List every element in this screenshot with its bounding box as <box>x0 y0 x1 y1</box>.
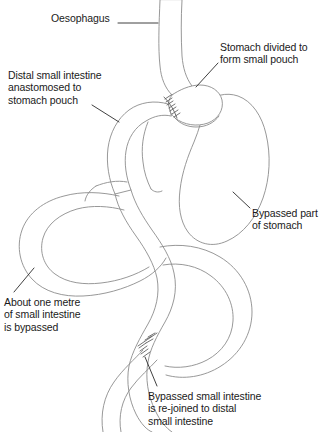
right-loop-inner <box>163 264 233 367</box>
leader-distal-anastomosed <box>92 105 119 122</box>
bypassed-loop-outer <box>19 193 166 297</box>
label-oesophagus: Oesophagus <box>51 12 110 24</box>
roux-limb-to-pouch <box>107 102 171 194</box>
label-bypassed-intestine-rejoined: Bypassed small intestine is re-joined to… <box>148 390 261 427</box>
upper-left-limb-bottom <box>85 186 96 201</box>
right-loop-outer <box>160 245 252 377</box>
leader-one-metre <box>14 268 34 292</box>
bypassed-loop-inner <box>42 206 149 283</box>
roux-limb-inner-fold <box>142 122 151 189</box>
leader-stomach-divided <box>196 63 218 87</box>
roux-limb-fold-tip <box>151 189 162 192</box>
distal-intestine-left <box>102 350 143 432</box>
oesophagus-outline <box>159 0 192 95</box>
label-stomach-divided: Stomach divided to form small pouch <box>220 41 308 66</box>
label-about-one-metre-bypassed: About one metre of small intestine is by… <box>4 296 80 333</box>
label-distal-small-intestine-anastomosed: Distal small intestine anastomosed to st… <box>8 69 102 106</box>
label-bypassed-part-of-stomach: Bypassed part of stomach <box>252 207 318 232</box>
diagram-canvas: Oesophagus Stomach divided to form small… <box>0 0 331 432</box>
